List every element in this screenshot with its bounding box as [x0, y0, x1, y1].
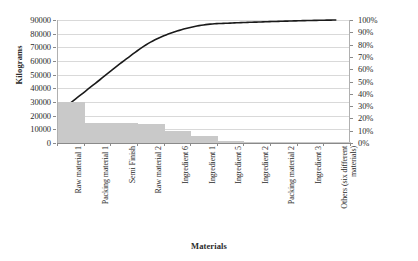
- bar: [165, 131, 192, 143]
- y-axis-tick-label: 80000: [0, 29, 51, 38]
- y-axis-tick-label: 90000: [0, 16, 51, 25]
- x-axis-tick-mark: [270, 143, 271, 146]
- percentage-axis-tick-label: 20%: [358, 114, 414, 123]
- x-axis-tick-mark: [84, 143, 85, 146]
- bar: [58, 102, 85, 143]
- y-axis-tick-label: 40000: [0, 84, 51, 93]
- plot-area: [57, 20, 350, 143]
- y-axis-tick-mark: [53, 75, 56, 76]
- percentage-axis-tick-label: 0%: [358, 139, 414, 148]
- y-axis-tick-mark: [53, 143, 56, 144]
- x-axis-title: Materials: [0, 241, 418, 251]
- x-axis-tick-mark: [190, 143, 191, 146]
- y-axis-tick-mark: [53, 116, 56, 117]
- bar: [191, 136, 218, 143]
- x-axis-line: [57, 143, 350, 144]
- percentage-axis-tick-mark: [350, 57, 353, 58]
- y-axis-tick-mark: [53, 20, 56, 21]
- percentage-axis-tick-mark: [350, 69, 353, 70]
- percentage-axis-tick-mark: [350, 32, 353, 33]
- category-labels: Raw material 1Packing material 1Semi Fin…: [57, 146, 350, 238]
- category-label: Ingredient 2: [261, 146, 275, 238]
- category-label: Semi Finish: [128, 146, 142, 238]
- category-label: Packing material 1: [101, 146, 115, 238]
- percentage-axis-tick-label: 70%: [358, 52, 414, 61]
- percentage-axis-tick-mark: [350, 82, 353, 83]
- y-axis-tick-label: 20000: [0, 111, 51, 120]
- category-label: Packing material 2: [287, 146, 301, 238]
- x-axis-tick-mark: [137, 143, 138, 146]
- bar: [111, 123, 138, 144]
- category-label: Others (six different materials): [341, 146, 355, 238]
- y-axis-tick-label: 10000: [0, 125, 51, 134]
- pareto-chart: 0100002000030000400005000060000700008000…: [0, 0, 418, 261]
- x-axis-tick-mark: [243, 143, 244, 146]
- percentage-axis-tick-mark: [350, 45, 353, 46]
- percentage-axis-tick-mark: [350, 131, 353, 132]
- category-label: Ingredient 3: [314, 146, 328, 238]
- y-axis-tick-mark: [53, 47, 56, 48]
- y-axis-tick-label: 50000: [0, 70, 51, 79]
- percentage-axis-tick-label: 40%: [358, 89, 414, 98]
- category-label: Raw material 2: [154, 146, 168, 238]
- x-axis-tick-mark: [164, 143, 165, 146]
- y-axis-tick-mark: [53, 129, 56, 130]
- x-axis-tick-mark: [57, 143, 58, 146]
- bar: [85, 123, 112, 144]
- percentage-axis-tick-label: 90%: [358, 28, 414, 37]
- x-axis-tick-mark: [297, 143, 298, 146]
- percentage-axis-tick-label: 80%: [358, 40, 414, 49]
- category-label: Ingredient 5: [234, 146, 248, 238]
- y-axis-tick-label: 70000: [0, 43, 51, 52]
- y-axis-title: Kilograms: [14, 30, 24, 100]
- right-percentage-axis: 0%10%20%30%40%50%60%70%80%90%100%: [350, 0, 416, 163]
- percentage-axis-tick-label: 50%: [358, 77, 414, 86]
- y-axis-tick-mark: [53, 34, 56, 35]
- x-axis-tick-mark: [217, 143, 218, 146]
- y-axis-tick-mark: [53, 61, 56, 62]
- percentage-axis-tick-label: 100%: [358, 16, 414, 25]
- left-value-axis: 0100002000030000400005000060000700008000…: [0, 0, 55, 163]
- percentage-axis-tick-label: 30%: [358, 102, 414, 111]
- y-axis-tick-label: 30000: [0, 98, 51, 107]
- percentage-axis-tick-mark: [350, 118, 353, 119]
- percentage-axis-tick-label: 60%: [358, 65, 414, 74]
- x-axis-tick-mark: [110, 143, 111, 146]
- category-label: Ingredient 1: [208, 146, 222, 238]
- y-axis-tick-label: 0: [0, 139, 51, 148]
- y-axis-tick-mark: [53, 102, 56, 103]
- bar: [138, 124, 165, 143]
- category-label: Ingredient 6: [181, 146, 195, 238]
- percentage-axis-tick-label: 10%: [358, 126, 414, 135]
- x-axis-tick-mark: [323, 143, 324, 146]
- y-axis-tick-label: 60000: [0, 57, 51, 66]
- category-label: Raw material 1: [74, 146, 88, 238]
- percentage-axis-tick-mark: [350, 20, 353, 21]
- percentage-axis-tick-mark: [350, 106, 353, 107]
- bars-layer: [58, 20, 349, 143]
- percentage-axis-tick-mark: [350, 94, 353, 95]
- y-axis-tick-mark: [53, 88, 56, 89]
- x-axis-tick-mark: [350, 143, 351, 146]
